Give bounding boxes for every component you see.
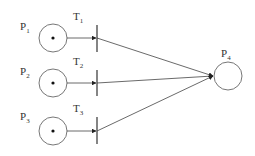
svg-text:P2: P2 xyxy=(20,65,30,80)
place-label-p2: P2 xyxy=(20,65,30,80)
transition-label-t2: T2 xyxy=(73,55,84,70)
svg-text:T1: T1 xyxy=(73,10,84,25)
token-p1 xyxy=(51,36,54,39)
svg-text:P1: P1 xyxy=(20,20,30,35)
arc-t2-p4 xyxy=(97,76,213,83)
transition-label-t3: T3 xyxy=(73,102,84,117)
svg-text:T3: T3 xyxy=(73,102,84,117)
svg-text:T2: T2 xyxy=(73,55,84,70)
place-p4 xyxy=(214,62,242,90)
svg-text:P3: P3 xyxy=(20,110,30,125)
place-label-p4: P4 xyxy=(221,47,231,62)
petri-net-diagram: P1 P2 P3 P4 T1 T2 T3 xyxy=(0,0,255,156)
token-p3 xyxy=(51,129,54,132)
place-label-p3: P3 xyxy=(20,110,30,125)
transition-label-t1: T1 xyxy=(73,10,84,25)
arc-t1-p4 xyxy=(97,38,213,76)
token-p2 xyxy=(51,81,54,84)
place-label-p1: P1 xyxy=(20,20,30,35)
svg-text:P4: P4 xyxy=(221,47,231,62)
arc-t3-p4 xyxy=(97,76,213,131)
